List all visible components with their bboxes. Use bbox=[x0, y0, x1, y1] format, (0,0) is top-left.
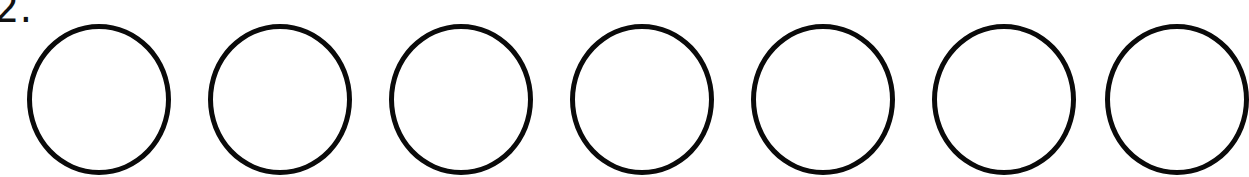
circle-6 bbox=[932, 24, 1076, 175]
circle-4 bbox=[570, 24, 714, 175]
circle-3 bbox=[389, 24, 533, 175]
problem-number-label: 2. bbox=[0, 0, 32, 28]
circle-5 bbox=[751, 24, 895, 175]
circle-1 bbox=[27, 24, 171, 175]
circle-7 bbox=[1105, 24, 1249, 175]
circle-2 bbox=[208, 24, 352, 175]
